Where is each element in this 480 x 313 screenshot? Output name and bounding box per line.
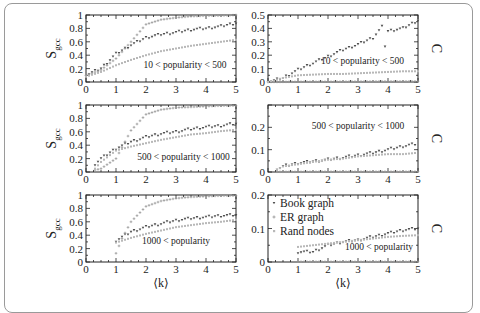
panel-middle-left: 01234500.20.40.60.81Sgcc500 < popularity…: [44, 99, 239, 185]
x-tick-label: 0: [83, 173, 89, 185]
x-tick-label: 3: [173, 83, 179, 95]
x-tick-label: 5: [233, 83, 239, 95]
y-tick-label: 0.6: [69, 36, 83, 48]
popularity-annotation: 10 < popularity < 500: [321, 56, 404, 66]
x-axis-label: ⟨k⟩: [335, 276, 350, 290]
x-tick-label: 1: [113, 263, 119, 275]
legend-entry-label: Rand nodes: [280, 225, 335, 237]
x-tick-label: 4: [203, 83, 209, 95]
y-axis-label: Sgcc: [44, 128, 62, 148]
y-tick-label: 0.8: [69, 202, 83, 214]
y-tick-label: 1: [78, 189, 84, 201]
y-tick-label: 0.1: [251, 63, 265, 75]
y-tick-label: 0.8: [69, 22, 83, 34]
y-tick-label: 0.4: [69, 49, 83, 61]
x-tick-label: 5: [415, 83, 421, 95]
y-tick-label: 0.2: [251, 189, 265, 201]
x-tick-label: 3: [355, 173, 361, 185]
x-tick-label: 0: [265, 263, 271, 275]
x-tick-label: 0: [265, 83, 271, 95]
y-tick-label: 0.4: [69, 139, 83, 151]
y-tick-label: 0.1: [251, 223, 265, 235]
x-tick-label: 2: [325, 263, 331, 275]
popularity-annotation: 1000 < popularity: [345, 242, 413, 252]
panel-top-right: 01234500.10.20.30.40.5C10 < popularity <…: [251, 9, 444, 95]
y-tick-label: 0.4: [251, 22, 265, 34]
legend: Book graphER graphRand nodes: [273, 197, 335, 237]
x-tick-label: 2: [143, 263, 149, 275]
x-tick-label: 1: [113, 83, 119, 95]
legend-entry-label: ER graph: [280, 211, 324, 224]
y-tick-label: 0.2: [69, 243, 83, 255]
popularity-annotation: 1000 < popularity: [142, 236, 210, 246]
popularity-annotation: 500 < popularity < 1000: [312, 121, 405, 131]
x-axis-label: ⟨k⟩: [153, 276, 168, 290]
x-tick-label: 5: [233, 173, 239, 185]
x-tick-label: 0: [83, 83, 89, 95]
y-tick-label: 0: [260, 76, 266, 88]
panel-top-left: 01234500.20.40.60.81Sgcc10 < popularity …: [44, 9, 239, 95]
y-tick-label: 0: [260, 256, 266, 268]
legend-book-marker-icon: [273, 202, 276, 204]
x-tick-label: 3: [355, 263, 361, 275]
popularity-annotation: 10 < popularity < 500: [143, 60, 226, 70]
series-er-graph: [297, 260, 420, 263]
plot-area: [268, 15, 418, 82]
panel-middle-right: 01234500.10.2C500 < popularity < 1000: [251, 105, 444, 185]
y-axis-label-right: C: [429, 224, 444, 233]
y-tick-label: 0.3: [251, 36, 265, 48]
y-tick-label: 0.6: [69, 126, 83, 138]
x-tick-label: 3: [355, 83, 361, 95]
x-tick-label: 1: [295, 83, 301, 95]
y-tick-label: 0.8: [69, 112, 83, 124]
x-tick-label: 0: [83, 263, 89, 275]
y-tick-label: 0: [78, 166, 84, 178]
x-tick-label: 1: [113, 173, 119, 185]
x-tick-label: 5: [233, 263, 239, 275]
y-tick-label: 0.2: [69, 153, 83, 165]
x-tick-label: 2: [143, 173, 149, 185]
legend-er-marker-icon: [273, 216, 276, 219]
y-tick-label: 0.2: [251, 49, 265, 61]
y-axis-label: Sgcc: [44, 218, 62, 238]
y-tick-label: 0.2: [69, 63, 83, 75]
legend-entry-label: Book graph: [280, 197, 334, 210]
x-tick-label: 3: [173, 263, 179, 275]
series-rand-nodes: [85, 39, 237, 78]
plot-area: [268, 105, 418, 172]
plot-area: [86, 15, 236, 82]
panel-bottom-right: 01234500.10.2C⟨k⟩1000 < popularityBook g…: [251, 189, 444, 290]
x-tick-label: 1: [295, 263, 301, 275]
x-tick-label: 2: [325, 173, 331, 185]
y-tick-label: 1: [78, 9, 84, 21]
x-tick-label: 5: [415, 173, 421, 185]
panel-bottom-left: 01234500.20.40.60.81Sgcc⟨k⟩1000 < popula…: [44, 189, 239, 290]
x-tick-label: 4: [203, 263, 209, 275]
y-tick-label: 0.6: [69, 216, 83, 228]
y-axis-label-right: C: [429, 44, 444, 53]
series-book-graph: [276, 142, 417, 171]
y-tick-label: 0: [78, 76, 84, 88]
x-tick-label: 0: [265, 173, 271, 185]
y-tick-label: 0.5: [251, 9, 265, 21]
y-tick-label: 1: [78, 99, 84, 111]
x-tick-label: 2: [143, 83, 149, 95]
x-tick-label: 3: [173, 173, 179, 185]
y-axis-label-right: C: [429, 134, 444, 143]
x-tick-label: 4: [385, 83, 391, 95]
x-tick-label: 4: [385, 263, 391, 275]
y-tick-label: 0: [78, 256, 84, 268]
x-tick-label: 4: [385, 173, 391, 185]
y-tick-label: 0.2: [251, 121, 265, 133]
plot-area: [86, 195, 236, 262]
x-tick-label: 5: [415, 263, 421, 275]
y-tick-label: 0.4: [69, 229, 83, 241]
popularity-annotation: 500 < popularity < 1000: [137, 152, 230, 162]
y-tick-label: 0: [260, 166, 266, 178]
x-tick-label: 4: [203, 173, 209, 185]
x-tick-label: 1: [295, 173, 301, 185]
x-tick-label: 2: [325, 83, 331, 95]
series-rand-nodes: [276, 152, 416, 171]
y-tick-label: 0.1: [251, 144, 265, 156]
